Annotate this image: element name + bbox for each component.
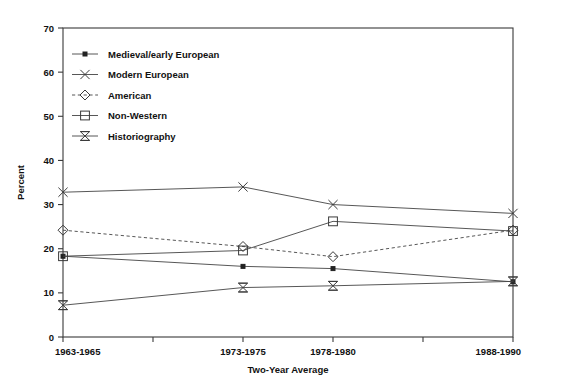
data-point (241, 264, 245, 268)
series-1 (58, 182, 517, 218)
legend-label: American (108, 90, 151, 101)
legend-label: Modern European (108, 69, 189, 80)
axis-titles: Two-Year AveragePercent (15, 164, 328, 375)
y-tick-label: 50 (43, 111, 54, 122)
y-tick-label: 60 (43, 67, 54, 78)
y-tick-label: 70 (43, 23, 54, 34)
x-axis-title: Two-Year Average (248, 364, 329, 375)
legend-item-0: Medieval/early European (72, 49, 220, 60)
y-tick-label: 30 (43, 199, 54, 210)
legend-item-3: Non-Western (72, 110, 167, 121)
data-series-group (58, 182, 518, 309)
series-line (63, 187, 513, 213)
legend-label: Historiography (108, 131, 176, 142)
series-line (63, 281, 513, 305)
x-axis: 1963-19651973-19751978-19801988-1990 (55, 337, 521, 357)
series-line (63, 230, 513, 256)
series-2 (58, 225, 518, 261)
y-tick-label: 0 (49, 332, 54, 343)
data-point (331, 267, 335, 271)
chart-legend: Medieval/early EuropeanModern EuropeanAm… (72, 49, 220, 142)
legend-item-1: Modern European (72, 69, 189, 80)
series-line (63, 256, 513, 282)
x-tick-label: 1978-1980 (310, 346, 355, 357)
y-axis-title: Percent (15, 164, 26, 200)
series-line (63, 221, 513, 256)
x-tick-label: 1963-1965 (55, 346, 101, 357)
legend-label: Non-Western (108, 110, 167, 121)
x-tick-label: 1988-1990 (476, 346, 521, 357)
y-tick-label: 40 (43, 155, 54, 166)
y-axis: 010203040506070 (43, 23, 63, 343)
y-tick-label: 10 (43, 287, 54, 298)
legend-item-2: American (72, 90, 151, 101)
series-3 (59, 217, 518, 261)
line-chart: 010203040506070 1963-19651973-19751978-1… (0, 0, 564, 387)
series-0 (61, 254, 515, 284)
legend-label: Medieval/early European (108, 49, 220, 60)
x-tick-label: 1973-1975 (220, 346, 266, 357)
legend-item-4: Historiography (72, 131, 176, 142)
chart-canvas: 010203040506070 1963-19651973-19751978-1… (0, 0, 564, 387)
y-tick-label: 20 (43, 243, 54, 254)
series-4 (58, 277, 517, 310)
legend-marker (83, 52, 87, 56)
